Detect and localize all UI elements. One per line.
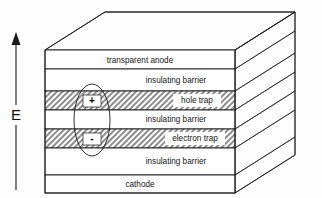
- label-cathode: cathode: [125, 180, 155, 189]
- layer-insulating-barrier-middle: [45, 110, 235, 129]
- side-face-hole-trap: [235, 53, 295, 110]
- side-face-transparent-anode: [235, 12, 295, 69]
- label-insulating-barrier-middle: insulating barrier: [146, 115, 207, 124]
- negative-charge-sign: -: [90, 133, 93, 144]
- label-hole-trap: hole trap: [181, 96, 213, 105]
- field-label: E: [11, 106, 21, 123]
- label-transparent-anode: transparent anode: [107, 56, 174, 65]
- diagram-canvas: transparent anode insulating barrier hol…: [0, 0, 322, 198]
- front-faces: [45, 50, 235, 193]
- top-face: [45, 12, 295, 50]
- side-face-insulating-barrier-middle: [235, 72, 295, 129]
- label-insulating-barrier-top: insulating barrier: [146, 76, 207, 85]
- label-insulating-barrier-bottom: insulating barrier: [146, 157, 207, 166]
- layer-insulating-barrier-top: [45, 69, 235, 91]
- right-side-faces: [235, 12, 295, 193]
- field-arrow-head: [12, 32, 21, 45]
- electric-field-arrow: E: [6, 32, 26, 190]
- label-electron-trap: electron trap: [172, 134, 218, 143]
- layered-device-diagram: transparent anode insulating barrier hol…: [0, 0, 322, 198]
- side-face-electron-trap: [235, 91, 295, 148]
- side-face-cathode: [235, 137, 295, 193]
- positive-charge-sign: +: [89, 95, 95, 106]
- side-face-insulating-barrier-top: [235, 31, 295, 91]
- layer-insulating-barrier-bottom: [45, 148, 235, 175]
